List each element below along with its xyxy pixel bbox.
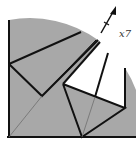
fold-diagram-svg xyxy=(0,0,136,143)
repeat-count-label: x7 xyxy=(119,28,131,39)
fold-arrow-icon xyxy=(101,6,116,33)
guide-line xyxy=(95,53,108,97)
origami-diagram: x7 xyxy=(0,0,136,143)
